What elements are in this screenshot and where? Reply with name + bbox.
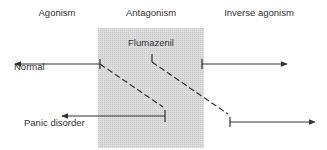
label-panic-disorder: Panic disorder (24, 117, 85, 128)
label-flumazenil: Flumazenil (128, 37, 174, 48)
header-antagonism: Antagonism (126, 7, 176, 18)
label-normal: Normal (14, 61, 45, 72)
receptor-diagram: Agonism Antagonism Inverse agonism Fluma… (0, 0, 327, 150)
header-agonism: Agonism (39, 7, 76, 18)
header-inverse-agonism: Inverse agonism (224, 7, 294, 18)
